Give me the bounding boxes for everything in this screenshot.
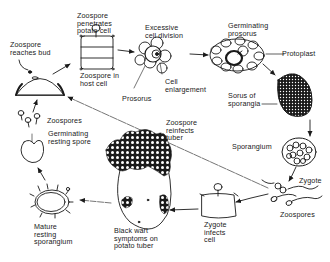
germinating-prosorus-icon: [210, 37, 264, 73]
zygote-infects-cell-icon: [200, 184, 238, 219]
label-zoospore-penetrates: Zoospore penetrates potato cell: [77, 12, 112, 35]
label-germinating-prosorus: Germinating prosorus: [228, 22, 268, 37]
zoospores-left-icon: [18, 111, 40, 128]
label-protoplast: Protoplast: [282, 50, 315, 58]
label-zygote-infects-cell: Zygote infects cell: [204, 221, 227, 244]
cell-division-icon: [135, 37, 171, 73]
label-zoospores-left: Zoospores: [47, 117, 82, 125]
label-zoospore-reinfects-tuber: Zoospore reinfects tuber: [166, 119, 197, 142]
germinating-resting-spore-icon: [21, 134, 44, 163]
label-zygote: Zygote: [299, 177, 322, 185]
label-zoospore-reaches-bud: Zoospore reaches bud: [10, 41, 51, 56]
sporangium-icon: [282, 138, 316, 166]
label-cell-enlargement: Cell enlargement: [165, 78, 206, 93]
resting-sporangium-icon: [30, 184, 73, 218]
life-cycle-diagram: Zoospore reaches bud Zoospore penetrates…: [0, 0, 330, 262]
sorus-of-sporangia-icon: [278, 74, 312, 117]
label-mature-resting-sporangium: Mature resting sporangium: [34, 223, 73, 246]
potato-tuber-icon: [106, 129, 172, 229]
label-germinating-resting-spore: Germinating resting spore: [48, 130, 91, 145]
label-sorus-of-sporangia: Sorus of sporangia: [228, 92, 260, 107]
label-excessive-division: Excessive cell division: [145, 24, 183, 39]
label-black-wart-symptoms: Black wart symptoms on potato tuber: [114, 227, 158, 250]
label-zoospores-right: Zoospores: [280, 211, 315, 219]
label-sporangium: Sporangium: [232, 143, 272, 151]
label-prosorus: Prosorus: [122, 95, 152, 103]
label-zoospore-in-host: Zoospore in host cell: [80, 72, 119, 87]
bud-icon: [16, 60, 64, 95]
